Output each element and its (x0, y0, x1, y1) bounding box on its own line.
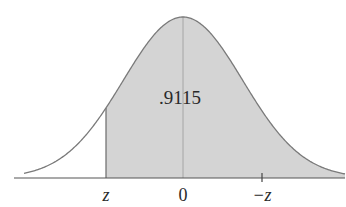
neg-z-label: −z (252, 185, 271, 205)
shaded-area (106, 17, 345, 178)
zero-label: 0 (179, 185, 188, 205)
z-label: z (101, 185, 109, 205)
normal-curve-diagram: .9115 z 0 −z (0, 0, 346, 207)
area-value-label: .9115 (159, 87, 201, 108)
